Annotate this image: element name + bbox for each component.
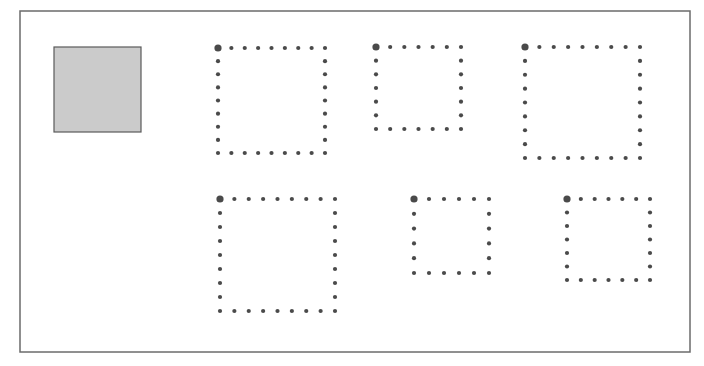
dot [648,224,652,228]
dot [552,156,556,160]
dot [523,128,527,132]
dot [459,127,463,131]
dot [319,197,323,201]
dot [638,156,642,160]
dot [638,100,642,104]
dot [333,211,337,215]
dot [566,156,570,160]
dot [412,256,416,260]
dot [580,156,584,160]
dot [412,271,416,275]
dot [565,210,569,214]
dot [296,46,300,50]
dot [579,278,583,282]
dot [609,156,613,160]
dot [459,59,463,63]
reference-gray-square [54,47,141,132]
dot [593,278,597,282]
dot [323,85,327,89]
dot [269,46,273,50]
dot [323,112,327,116]
dot [412,212,416,216]
dot [374,100,378,104]
corner-start-dot [216,195,223,202]
dot [648,278,652,282]
dot [218,253,222,257]
dot [412,241,416,245]
dot [310,151,314,155]
dot [523,87,527,91]
dot [218,309,222,313]
dot [427,271,431,275]
dot [565,264,569,268]
diagram-canvas [0,0,704,366]
dotted-square-3 [521,43,642,160]
dot [283,46,287,50]
dot [523,156,527,160]
diagram-svg [0,0,704,366]
dot [580,45,584,49]
dot [374,86,378,90]
dot [487,256,491,260]
dotted-square-6 [563,195,652,282]
dot [595,45,599,49]
dot [243,151,247,155]
dot [523,114,527,118]
dot [552,45,556,49]
dot [229,151,233,155]
dot [216,98,220,102]
dot [459,113,463,117]
dot [648,210,652,214]
dot [333,295,337,299]
dot [333,239,337,243]
dot [609,45,613,49]
dot [247,309,251,313]
dot [229,46,233,50]
dot [290,309,294,313]
dot [624,45,628,49]
dot [638,87,642,91]
dot [648,237,652,241]
dot [333,267,337,271]
dot [565,251,569,255]
dot [431,45,435,49]
dot [648,251,652,255]
dot [296,151,300,155]
dot [402,127,406,131]
dot [283,151,287,155]
dot [565,224,569,228]
dot [565,237,569,241]
corner-start-dot [214,44,221,51]
dot [216,138,220,142]
dot [304,309,308,313]
dot [323,98,327,102]
dot [310,46,314,50]
dot [487,212,491,216]
dot [566,45,570,49]
dot [216,112,220,116]
dot [606,197,610,201]
dot [323,151,327,155]
dot [290,197,294,201]
dot [595,156,599,160]
dot [256,151,260,155]
dot [323,125,327,129]
dot [304,197,308,201]
dot [261,197,265,201]
dot [323,46,327,50]
dot [416,45,420,49]
dot [388,127,392,131]
dot [638,114,642,118]
dot [269,151,273,155]
dot [523,100,527,104]
dot [374,72,378,76]
dot [445,127,449,131]
dot [333,197,337,201]
dot [388,45,392,49]
dot [218,239,222,243]
dot [634,278,638,282]
dot [256,46,260,50]
dot [579,197,583,201]
dot [374,113,378,117]
dot [537,156,541,160]
